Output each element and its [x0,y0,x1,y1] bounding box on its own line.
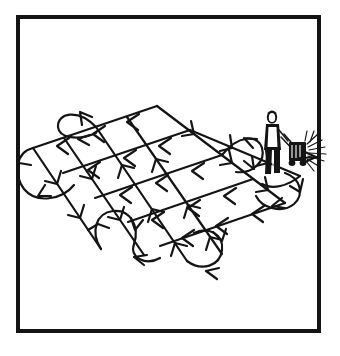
person-face-highlight [269,113,275,122]
person-leg-right [274,150,280,173]
person-legs [265,150,272,174]
mower-wheel [289,160,296,166]
person-shirt-highlight [268,127,278,147]
figure-root: Lawn mowing crosshatch pattern Line draw… [0,0,340,356]
lawn-mowing-diagram: Lawn mowing crosshatch pattern Line draw… [0,0,340,356]
person-leg-gap [272,152,273,172]
